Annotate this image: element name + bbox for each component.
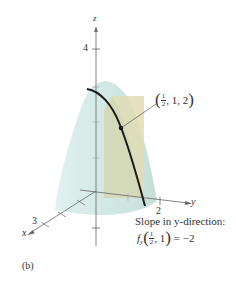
x-tick-3 bbox=[41, 222, 49, 227]
x-tick-label: 3 bbox=[32, 215, 37, 226]
slope-caption-line1: Slope in y-direction: bbox=[135, 215, 225, 227]
func-arg-rest: , 1 bbox=[154, 232, 165, 244]
z-axis-arrow bbox=[94, 26, 98, 32]
point-coords-rest: , 1, 2 bbox=[166, 94, 188, 106]
diagram-canvas bbox=[0, 0, 236, 283]
point-annotation: (12, 1, 2) bbox=[155, 90, 194, 110]
slope-result: = −2 bbox=[171, 232, 194, 244]
close-paren: ) bbox=[188, 90, 194, 109]
slope-caption-formula: fy(12, 1) = −2 bbox=[137, 228, 194, 248]
z-tick-label: 4 bbox=[83, 42, 88, 53]
y-axis-label: y bbox=[191, 196, 195, 207]
z-axis-label: z bbox=[93, 13, 97, 23]
x-axis-label: x bbox=[22, 227, 26, 238]
panel-label: (b) bbox=[22, 260, 34, 271]
